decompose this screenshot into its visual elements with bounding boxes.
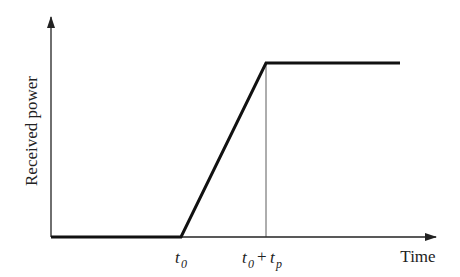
diagram-canvas: Received power Time t 0 t 0 + t p [0, 0, 460, 277]
tick-label-t0-plus-tp: t 0 + t p [242, 247, 282, 271]
svg-text:+: + [257, 247, 267, 266]
power-curve [51, 63, 400, 237]
svg-text:0: 0 [248, 257, 254, 271]
svg-text:0: 0 [181, 257, 187, 271]
tick-label-t0: t 0 [175, 248, 187, 271]
x-axis-label: Time [400, 247, 435, 266]
y-axis-label: Received power [22, 76, 41, 186]
svg-text:p: p [275, 257, 282, 271]
